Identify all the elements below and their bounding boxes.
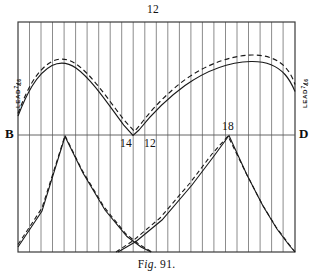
- lead-label-left: LEAD716: [15, 79, 22, 108]
- lead-left-numerator: 7: [14, 85, 19, 88]
- caption-number: 91.: [160, 258, 175, 270]
- figure-container: 12 14 12 18 B D LEAD716 LEAD716 Fig.91.: [0, 0, 313, 276]
- lower-left-curve-dashed: [18, 136, 152, 253]
- lower-right-curve-dashed: [116, 136, 295, 252]
- lead-left-denominator: 16: [17, 78, 22, 85]
- lower-left-curve-solid: [18, 137, 151, 253]
- axis-label-d: D: [299, 127, 308, 140]
- lead-right-denominator: 16: [304, 78, 309, 85]
- annotation-crossing-12: 12: [144, 138, 156, 150]
- annotation-peak-18: 18: [222, 121, 234, 133]
- lead-label-left-fraction: 716: [15, 79, 22, 88]
- grid-lines: [30, 22, 284, 252]
- plot-area: [0, 0, 313, 276]
- lead-label-right: LEAD716: [302, 79, 309, 108]
- lead-label-right-word: LEAD: [301, 89, 308, 108]
- figure-caption: Fig.91.: [0, 259, 313, 271]
- annotation-top-12: 12: [147, 4, 159, 16]
- annotation-crossing-14: 14: [120, 138, 132, 150]
- lead-label-right-fraction: 716: [302, 79, 309, 88]
- caption-prefix-ig: ig.: [144, 258, 157, 270]
- axis-label-b: B: [5, 127, 14, 140]
- lead-label-left-word: LEAD: [14, 89, 21, 108]
- lead-right-numerator: 7: [301, 85, 306, 88]
